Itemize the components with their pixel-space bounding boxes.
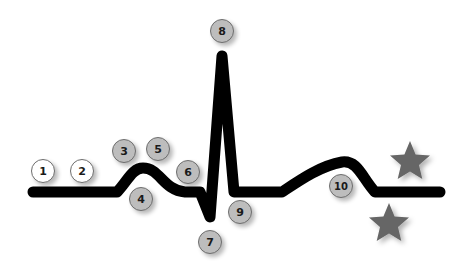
ecg-waveform-line <box>33 56 440 217</box>
ecg-diagram <box>0 0 472 271</box>
marker-5: 5 <box>146 137 170 161</box>
marker-3: 3 <box>112 139 136 163</box>
marker-8: 8 <box>210 19 234 43</box>
marker-7: 7 <box>198 230 222 254</box>
marker-6: 6 <box>176 160 200 184</box>
star-upper-icon <box>390 141 430 179</box>
marker-1: 1 <box>31 159 55 183</box>
marker-10: 10 <box>329 174 353 198</box>
marker-9: 9 <box>228 200 252 224</box>
star-lower-icon <box>369 203 409 241</box>
marker-4: 4 <box>129 187 153 211</box>
marker-2: 2 <box>70 159 94 183</box>
